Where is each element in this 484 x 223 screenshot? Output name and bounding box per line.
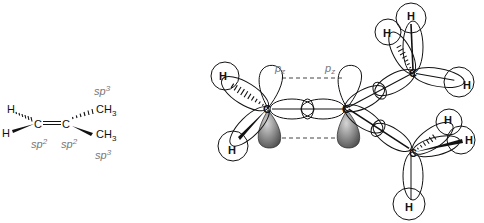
atom-h-c1-bottom: H <box>228 144 236 156</box>
orbital-model: C C C C H H H H H H H H pz pz <box>211 3 475 220</box>
atom-h-top: H <box>7 103 15 115</box>
atom-h-c4-a: H <box>405 201 413 213</box>
atom-h-bottom: H <box>2 127 10 139</box>
atom-h-c3-a: H <box>407 10 415 22</box>
hybridization-ch3-bottom: sp3 <box>95 148 112 161</box>
wedge-bond-ch3-bottom <box>72 126 93 136</box>
pz-lower-lobe-left <box>258 110 281 148</box>
pz-lower-lobe-right <box>337 110 360 148</box>
atom-c1: C <box>263 103 271 115</box>
atom-h-c3-b: H <box>383 27 391 39</box>
atom-c-right: C <box>62 118 70 130</box>
diagram-canvas: H H C C CH3 CH3 sp3 sp2 sp2 sp3 <box>0 0 484 223</box>
hashed-bond-h-top <box>16 112 32 122</box>
hybridization-c-left: sp2 <box>31 137 48 150</box>
c3-methyl <box>375 3 474 97</box>
atom-h-c1-top: H <box>219 70 227 82</box>
hybridization-c-right: sp2 <box>61 137 78 150</box>
group-ch3-bottom: CH3 <box>96 128 117 143</box>
pz-label-right: pz <box>324 62 335 76</box>
atom-c-left: C <box>34 118 42 130</box>
atom-h-c3-c: H <box>463 79 471 91</box>
atom-c4: C <box>409 147 417 159</box>
atom-h-c4-c: H <box>465 134 473 146</box>
group-ch3-top: CH3 <box>96 103 117 118</box>
wedge-bond-h-bottom <box>12 124 34 133</box>
hybridization-ch3-top: sp3 <box>94 84 111 97</box>
structural-formula: H H C C CH3 CH3 sp3 sp2 sp2 sp3 <box>2 84 117 161</box>
hashed-bond-ch3-top <box>73 109 94 119</box>
atom-c3: C <box>409 67 417 79</box>
atom-h-c4-b: H <box>444 114 452 126</box>
c4-h-wedge <box>415 139 463 152</box>
pz-label-left: pz <box>274 62 285 76</box>
atom-c2: C <box>342 103 350 115</box>
